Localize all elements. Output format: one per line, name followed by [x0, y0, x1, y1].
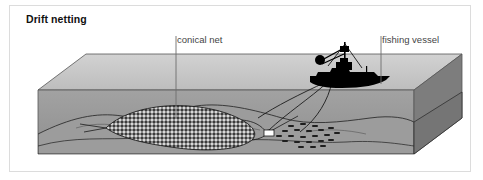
drift-netting-diagram: [10, 6, 472, 173]
sea-surface-plane: [38, 54, 462, 90]
figure-panel: Drift netting: [9, 5, 471, 172]
float-marker: [264, 130, 274, 136]
label-conical-net: conical net: [177, 34, 222, 45]
label-fishing-vessel: fishing vessel: [382, 34, 439, 45]
